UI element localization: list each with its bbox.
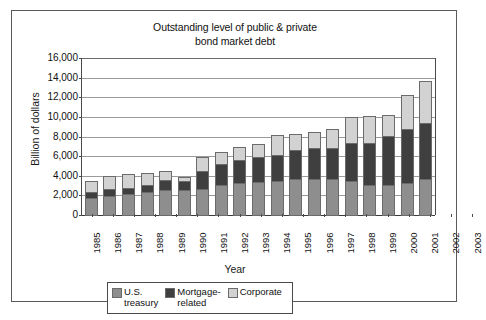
legend-item[interactable]: U.S. treasury	[112, 286, 158, 308]
bar-column[interactable]	[212, 58, 231, 215]
bar-segment-treasury[interactable]	[290, 180, 301, 215]
bar-segment-corporate[interactable]	[216, 153, 227, 165]
bar-segment-treasury[interactable]	[253, 183, 264, 215]
bar-column[interactable]	[416, 58, 435, 215]
bar-segment-mortgage[interactable]	[290, 151, 301, 179]
bar-segment-corporate[interactable]	[327, 130, 338, 149]
bar-segment-treasury[interactable]	[104, 197, 115, 215]
bar-column[interactable]	[193, 58, 212, 215]
bar-segment-mortgage[interactable]	[197, 172, 208, 190]
bar-column[interactable]	[286, 58, 305, 215]
bar-column[interactable]	[342, 58, 361, 215]
bar-segment-mortgage[interactable]	[364, 144, 375, 185]
bar-segment-corporate[interactable]	[402, 96, 413, 129]
bar-column[interactable]	[324, 58, 343, 215]
bar-column[interactable]	[231, 58, 250, 215]
bar-segment-mortgage[interactable]	[234, 161, 245, 184]
bar-segment-mortgage[interactable]	[216, 165, 227, 186]
bar-segment-corporate[interactable]	[104, 177, 115, 190]
y-axis-tick-label: 4,000	[22, 171, 78, 181]
bar-segment-treasury[interactable]	[234, 184, 245, 215]
bar-column[interactable]	[156, 58, 175, 215]
bar-segment-mortgage[interactable]	[272, 156, 283, 182]
bar-column[interactable]	[82, 58, 101, 215]
bar-stack[interactable]	[233, 147, 246, 216]
bar-stack[interactable]	[382, 115, 395, 216]
bar-stack[interactable]	[401, 95, 414, 216]
bar-segment-treasury[interactable]	[179, 191, 190, 215]
bar-stack[interactable]	[363, 116, 376, 216]
bar-column[interactable]	[398, 58, 417, 215]
bar-segment-mortgage[interactable]	[104, 190, 115, 197]
bar-segment-treasury[interactable]	[364, 186, 375, 215]
bar-segment-mortgage[interactable]	[253, 158, 264, 183]
bar-segment-corporate[interactable]	[123, 175, 134, 189]
bar-segment-treasury[interactable]	[142, 193, 153, 215]
bar-column[interactable]	[361, 58, 380, 215]
bar-stack[interactable]	[419, 81, 432, 216]
bar-segment-mortgage[interactable]	[402, 130, 413, 184]
bar-segment-corporate[interactable]	[272, 136, 283, 155]
bar-column[interactable]	[138, 58, 157, 215]
bar-stack[interactable]	[308, 132, 321, 216]
bar-stack[interactable]	[326, 129, 339, 216]
bar-segment-treasury[interactable]	[402, 184, 413, 215]
bar-column[interactable]	[101, 58, 120, 215]
bar-stack[interactable]	[122, 174, 135, 216]
bar-segment-mortgage[interactable]	[142, 186, 153, 194]
bar-segment-mortgage[interactable]	[346, 144, 357, 182]
bar-segment-treasury[interactable]	[216, 186, 227, 215]
bar-segment-treasury[interactable]	[383, 186, 394, 215]
bar-segment-corporate[interactable]	[253, 145, 264, 158]
bar-stack[interactable]	[289, 134, 302, 216]
bar-column[interactable]	[268, 58, 287, 215]
bar-segment-treasury[interactable]	[420, 180, 431, 215]
bar-segment-mortgage[interactable]	[383, 137, 394, 185]
bar-stack[interactable]	[196, 157, 209, 216]
bar-segment-corporate[interactable]	[420, 82, 431, 124]
bar-column[interactable]	[249, 58, 268, 215]
bar-segment-mortgage[interactable]	[160, 181, 171, 192]
x-axis-tick-mark	[197, 214, 198, 217]
bar-segment-corporate[interactable]	[364, 117, 375, 144]
bar-stack[interactable]	[215, 152, 228, 216]
bar-segment-mortgage[interactable]	[420, 124, 431, 180]
bar-stack[interactable]	[271, 135, 284, 216]
bar-segment-treasury[interactable]	[197, 190, 208, 215]
legend-item[interactable]: Mortgage- related	[165, 286, 220, 308]
legend-item[interactable]: Corporate	[228, 286, 282, 298]
bar-column[interactable]	[119, 58, 138, 215]
bar-segment-corporate[interactable]	[290, 135, 301, 152]
bar-column[interactable]	[379, 58, 398, 215]
bar-segment-mortgage[interactable]	[309, 149, 320, 179]
bar-segment-treasury[interactable]	[272, 182, 283, 215]
bar-stack[interactable]	[159, 171, 172, 216]
bar-stack[interactable]	[103, 176, 116, 216]
bar-segment-corporate[interactable]	[383, 116, 394, 138]
bar-column[interactable]	[305, 58, 324, 215]
bar-segment-treasury[interactable]	[123, 195, 134, 215]
bar-stack[interactable]	[141, 173, 154, 216]
bar-segment-treasury[interactable]	[346, 182, 357, 215]
chart-title: Outstanding level of public & private bo…	[12, 20, 458, 48]
bar-segment-corporate[interactable]	[197, 158, 208, 172]
bar-segment-corporate[interactable]	[142, 174, 153, 185]
y-axis-tick-label: 12,000	[22, 92, 78, 102]
bar-segment-corporate[interactable]	[309, 133, 320, 150]
bar-segment-corporate[interactable]	[160, 172, 171, 180]
bar-segment-treasury[interactable]	[327, 180, 338, 215]
bar-segment-mortgage[interactable]	[327, 149, 338, 180]
bar-segment-treasury[interactable]	[309, 180, 320, 215]
bar-segment-treasury[interactable]	[160, 191, 171, 215]
bar-segment-mortgage[interactable]	[179, 182, 190, 191]
bar-stack[interactable]	[345, 117, 358, 216]
bar-segment-corporate[interactable]	[234, 148, 245, 161]
bar-stack[interactable]	[252, 144, 265, 216]
bar-column[interactable]	[175, 58, 194, 215]
bar-segment-corporate[interactable]	[346, 118, 357, 144]
x-axis-tick-mark	[218, 214, 219, 217]
bar-stack[interactable]	[85, 181, 98, 216]
bar-segment-corporate[interactable]	[86, 182, 97, 193]
bar-segment-treasury[interactable]	[86, 199, 97, 215]
bar-stack[interactable]	[178, 177, 191, 216]
